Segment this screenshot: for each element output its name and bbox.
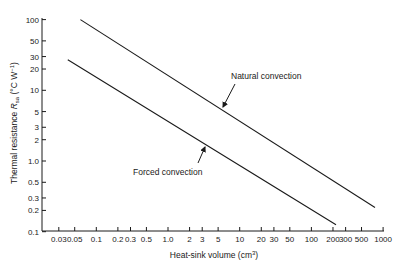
x-tick-label: 0.5: [141, 235, 153, 244]
x-tick-label: 0.3: [125, 235, 137, 244]
y-tick-label: 10: [30, 86, 39, 95]
y-tick-label: 0.3: [28, 194, 40, 203]
forced-convection-line: [68, 60, 336, 225]
x-tick-label: 3: [200, 235, 205, 244]
y-tick-label: 20: [30, 65, 39, 74]
natural-convection-label: Natural convection: [231, 71, 302, 81]
x-tick-label: 20: [257, 235, 266, 244]
x-tick-label: 30: [269, 235, 278, 244]
x-tick-label: 1.0: [162, 235, 174, 244]
x-tick-label: 50: [285, 235, 294, 244]
x-axis-title: Heat-sink volume (cm3): [170, 250, 259, 260]
x-tick-label: 300: [339, 235, 353, 244]
forced-convection-label: Forced convection: [133, 167, 203, 177]
x-tick-label: 0.05: [67, 235, 83, 244]
axes: [42, 18, 384, 231]
x-tick-label: 100: [305, 235, 319, 244]
x-ticks: 0.030.050.10.20.30.51.023510203050100200…: [51, 227, 393, 244]
x-tick-label: 500: [355, 235, 369, 244]
y-tick-label: 50: [30, 37, 39, 46]
x-tick-label: 10: [235, 235, 244, 244]
x-tick-label: 0.1: [91, 235, 103, 244]
natural-convection-arrow-icon: [223, 84, 235, 107]
y-tick-label: 3: [35, 123, 40, 132]
y-tick-label: 30: [30, 53, 39, 62]
series-lines: [68, 20, 375, 225]
x-tick-label: 1000: [374, 235, 392, 244]
x-tick-label: 0.2: [112, 235, 124, 244]
y-tick-label: 0.1: [28, 228, 40, 237]
x-tick-label: 5: [216, 235, 221, 244]
y-tick-label: 0.2: [28, 206, 40, 215]
natural-convection-line: [80, 20, 375, 208]
x-tick-label: 0.03: [51, 235, 67, 244]
y-tick-label: 0.5: [28, 178, 40, 187]
x-tick-label: 2: [187, 235, 192, 244]
y-tick-label: 100: [26, 16, 40, 25]
y-axis-title: Thermal resistance Rsa (°C W−1): [9, 62, 20, 184]
heat-sink-chart: 100503020105321.00.50.30.20.1 0.030.050.…: [0, 0, 402, 278]
annotations: Natural convectionForced convection: [133, 71, 302, 177]
forced-convection-arrow-icon: [198, 147, 205, 163]
y-ticks: 100503020105321.00.50.30.20.1: [26, 16, 46, 237]
y-tick-label: 5: [35, 108, 40, 117]
y-tick-label: 2: [35, 136, 40, 145]
y-tick-label: 1.0: [28, 157, 40, 166]
